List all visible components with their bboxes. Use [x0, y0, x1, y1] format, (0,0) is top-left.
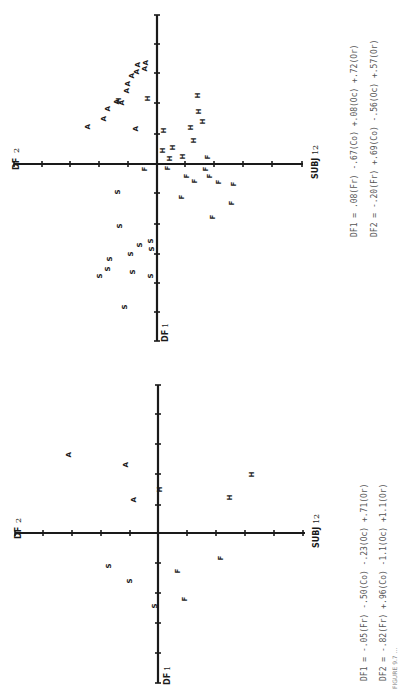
- data-point-s: S: [126, 578, 134, 583]
- top-df1-equation: DF1 = .08(Fr) -.67(Co) +.08(Oc) +.72(Or): [350, 44, 359, 237]
- figure-canvas: AAAAAAAAAAAAAHHHHHHHHHHHHFFFFFFFFFFFFSSS…: [0, 0, 399, 689]
- top-df1-label: DF: [161, 330, 170, 342]
- bottom-df1-axis-label: DF 1: [163, 666, 172, 685]
- data-point-h: H: [179, 154, 187, 160]
- data-point-a: A: [104, 106, 112, 112]
- data-point-f: F: [202, 167, 210, 172]
- figure-caption: FIGURE 9.7 ...: [391, 648, 398, 689]
- data-point-s: S: [129, 269, 137, 274]
- top-df1-number: 1: [161, 323, 170, 328]
- data-point-h: H: [160, 128, 168, 134]
- data-point-h: H: [115, 98, 123, 104]
- bottom-chart-axes: [15, 385, 305, 683]
- bottom-df1-equation: DF1 = -.05(Fr) -.50(Co) -.23(Oc) +.71(Or…: [360, 484, 369, 681]
- data-point-s: S: [136, 242, 144, 247]
- data-point-h: H: [159, 148, 167, 154]
- top-df2-number: 2: [12, 148, 21, 153]
- data-point-a: A: [122, 462, 130, 468]
- data-point-a: A: [134, 62, 142, 68]
- bottom-scatter-chart: AAAHHHSSSFFF DF 2 DF 1 SUBJ 12 DF1 = -.0…: [14, 385, 388, 685]
- top-chart-axes: [14, 15, 303, 341]
- data-point-f: F: [183, 174, 191, 179]
- data-point-a: A: [84, 124, 92, 130]
- bottom-df2-number: 2: [14, 518, 23, 523]
- data-point-s: S: [151, 603, 159, 608]
- data-point-h: H: [248, 472, 256, 478]
- data-point-a: A: [142, 60, 150, 66]
- data-point-s: S: [104, 266, 112, 271]
- data-point-h: H: [187, 125, 195, 131]
- data-point-f: F: [206, 174, 214, 179]
- bottom-df2-equation: DF2 = -.82(Fr) +.96(Co) -1.1(Oc) +1.1(Or…: [379, 484, 388, 681]
- data-point-a: A: [133, 69, 141, 75]
- top-subj-label: SUBJ: [311, 158, 320, 179]
- data-point-f: F: [215, 180, 223, 185]
- data-point-f: F: [204, 155, 212, 160]
- data-point-f: F: [141, 167, 149, 172]
- data-point-f: F: [164, 166, 172, 171]
- data-point-s: S: [96, 273, 104, 278]
- data-point-f: F: [228, 201, 236, 206]
- data-point-h: H: [199, 119, 207, 125]
- top-scatter-chart: AAAAAAAAAAAAAHHHHHHHHHHHHFFFFFFFFFFFFSSS…: [12, 15, 379, 342]
- data-point-h: H: [144, 96, 152, 102]
- top-df2-axis-label: DF 2: [12, 148, 21, 170]
- data-point-s: S: [106, 256, 114, 261]
- bottom-subj-label: SUBJ: [312, 527, 321, 548]
- top-df2-label: DF: [12, 158, 21, 170]
- bottom-df1-label: DF: [163, 673, 172, 685]
- bottom-df2-axis-label: DF 2: [14, 518, 23, 539]
- bottom-df1-number: 1: [163, 666, 172, 671]
- data-point-a: A: [132, 126, 140, 132]
- data-point-h: H: [195, 109, 203, 115]
- data-point-f: F: [178, 195, 186, 200]
- data-point-f: F: [174, 569, 182, 574]
- data-point-f: F: [217, 556, 225, 561]
- data-point-f: F: [230, 182, 238, 187]
- top-subject-label: SUBJ 12: [311, 145, 320, 179]
- top-subj-number: 12: [311, 145, 320, 155]
- data-point-h: H: [226, 495, 234, 501]
- data-point-h: H: [194, 93, 202, 99]
- data-point-h: H: [190, 138, 198, 144]
- data-point-a: A: [130, 497, 138, 503]
- data-point-a: A: [65, 452, 73, 458]
- data-point-f: F: [209, 215, 217, 220]
- data-point-s: S: [148, 246, 156, 251]
- data-point-s: S: [116, 223, 124, 228]
- top-df1-axis-label: DF 1: [161, 323, 170, 342]
- data-point-h: H: [156, 487, 164, 493]
- data-point-f: F: [191, 179, 199, 184]
- bottom-df2-label: DF: [14, 527, 23, 539]
- data-point-a: A: [123, 88, 131, 94]
- data-point-h: H: [169, 145, 177, 151]
- bottom-subject-label: SUBJ 12: [312, 514, 321, 548]
- data-point-a: A: [100, 116, 108, 122]
- data-point-f: F: [181, 597, 189, 602]
- data-point-a: A: [124, 81, 132, 87]
- data-point-s: S: [114, 189, 122, 194]
- bottom-chart-points: AAAHHHSSSFFF: [65, 452, 256, 609]
- data-point-h: H: [166, 156, 174, 162]
- data-point-s: S: [105, 563, 113, 568]
- data-point-s: S: [147, 238, 155, 243]
- top-df2-equation: DF2 = -.20(Fr) +.69(Co) -.56(Oc) +.57(Or…: [370, 40, 379, 237]
- bottom-subj-number: 12: [312, 514, 321, 524]
- data-point-s: S: [147, 273, 155, 278]
- data-point-s: S: [127, 251, 135, 256]
- data-point-s: S: [121, 304, 129, 309]
- top-chart-points: AAAAAAAAAAAAAHHHHHHHHHHHHFFFFFFFFFFFFSSS…: [84, 60, 238, 310]
